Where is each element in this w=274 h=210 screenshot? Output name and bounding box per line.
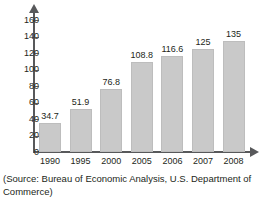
x-axis-tick-label: 2007	[186, 156, 220, 166]
y-axis-tick: 20	[0, 131, 39, 140]
bar-value-label: 34.7	[32, 111, 68, 121]
y-axis-tick: 60	[0, 98, 39, 107]
bar[interactable]	[100, 89, 122, 152]
y-axis-tick: 80	[0, 82, 39, 91]
y-axis-tick: 120	[0, 49, 39, 58]
y-axis-tick: 140	[0, 32, 39, 41]
bar-group: 108.8	[127, 12, 157, 152]
bar-group: 51.9	[66, 12, 96, 152]
source-caption: (Source: Bureau of Economic Analysis, U.…	[3, 172, 265, 198]
bar-group: 34.7	[35, 12, 65, 152]
bar-value-label: 135	[216, 29, 252, 39]
bar-chart-figure: 020406080100120140160 34.751.976.8108.81…	[0, 0, 274, 210]
bar-group: 116.6	[157, 12, 187, 152]
bar-group: 125	[188, 12, 218, 152]
x-axis-tick-label: 1990	[33, 156, 67, 166]
y-axis-tick: 100	[0, 65, 39, 74]
x-axis-tick-label: 2000	[94, 156, 128, 166]
bar[interactable]	[161, 56, 183, 152]
bar-value-label: 76.8	[93, 77, 129, 87]
bar[interactable]	[70, 109, 92, 152]
y-axis-tick: 160	[0, 16, 39, 25]
bar-group: 76.8	[96, 12, 126, 152]
bar-group: 135	[219, 12, 249, 152]
y-axis-tick-mark	[35, 152, 39, 153]
bars-layer: 34.751.976.8108.8116.6125135	[35, 12, 250, 152]
bar-value-label: 51.9	[63, 97, 99, 107]
bar[interactable]	[131, 62, 153, 152]
x-axis-arrow-icon	[250, 147, 259, 157]
x-axis-tick-label: 2006	[155, 156, 189, 166]
x-axis-tick-label: 1995	[64, 156, 98, 166]
bar[interactable]	[223, 41, 245, 152]
x-axis-tick-label: 2005	[125, 156, 159, 166]
bar[interactable]	[39, 123, 61, 152]
bar[interactable]	[192, 49, 214, 152]
plot-area: 020406080100120140160 34.751.976.8108.81…	[0, 0, 274, 170]
x-axis-tick-label: 2008	[217, 156, 251, 166]
